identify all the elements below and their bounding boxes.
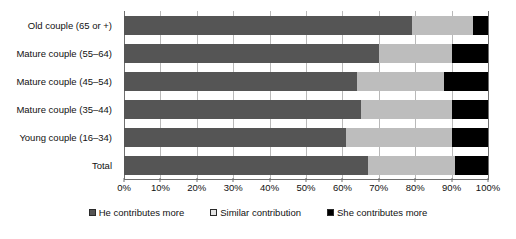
bar-slot — [124, 123, 488, 151]
x-axis-tick-label: 20% — [187, 182, 206, 194]
bar-slot — [124, 151, 488, 179]
x-axis-tick-label: 40% — [260, 182, 279, 194]
y-axis-label: Young couple (16–34) — [19, 132, 118, 143]
y-axis-label: Mature couple (45–54) — [16, 76, 118, 87]
legend-swatch-icon — [89, 209, 96, 216]
bar-segment[interactable] — [455, 156, 488, 175]
legend-swatch-icon — [327, 209, 334, 216]
bar-slot — [124, 67, 488, 95]
bar-segment[interactable] — [124, 100, 361, 119]
bar-segment[interactable] — [452, 100, 488, 119]
plot-area — [124, 11, 488, 179]
bar-segment[interactable] — [368, 156, 455, 175]
x-axis-tick-labels: 0%10%20%30%40%50%60%70%80%90%100% — [124, 182, 488, 198]
legend-item[interactable]: She contributes more — [327, 207, 427, 218]
y-axis-label-slot: Mature couple (55–64) — [0, 39, 118, 67]
y-axis-label-slot: Mature couple (35–44) — [0, 95, 118, 123]
legend-label: Similar contribution — [220, 207, 301, 218]
y-axis-label: Mature couple (55–64) — [16, 48, 118, 59]
y-axis-label-slot: Mature couple (45–54) — [0, 67, 118, 95]
y-axis-label-slot: Old couple (65 or +) — [0, 11, 118, 39]
stacked-bar[interactable] — [124, 100, 488, 119]
bar-segment[interactable] — [452, 44, 488, 63]
y-axis-category-labels: Old couple (65 or +)Mature couple (55–64… — [0, 11, 118, 179]
stacked-bar[interactable] — [124, 44, 488, 63]
legend-item[interactable]: He contributes more — [89, 207, 185, 218]
x-axis-tick-label: 50% — [296, 182, 315, 194]
x-axis-tick-label: 100% — [476, 182, 500, 194]
bar-segment[interactable] — [124, 156, 368, 175]
legend-swatch-icon — [210, 209, 217, 216]
bar-segment[interactable] — [473, 16, 488, 35]
bar-slot — [124, 11, 488, 39]
stacked-bar[interactable] — [124, 72, 488, 91]
stacked-bar[interactable] — [124, 16, 488, 35]
bar-series-layer — [124, 11, 488, 179]
bar-segment[interactable] — [412, 16, 474, 35]
bar-segment[interactable] — [346, 128, 452, 147]
bar-segment[interactable] — [361, 100, 452, 119]
bar-segment[interactable] — [444, 72, 488, 91]
legend-item[interactable]: Similar contribution — [210, 207, 301, 218]
bar-slot — [124, 95, 488, 123]
x-axis-tick-label: 0% — [117, 182, 131, 194]
x-axis-tick-label: 30% — [224, 182, 243, 194]
y-axis-label: Mature couple (35–44) — [16, 104, 118, 115]
legend-label: He contributes more — [99, 207, 185, 218]
x-axis-tick-label: 80% — [406, 182, 425, 194]
bar-segment[interactable] — [379, 44, 452, 63]
bar-segment[interactable] — [124, 128, 346, 147]
chart-legend: He contributes moreSimilar contributionS… — [0, 207, 516, 218]
bar-segment[interactable] — [124, 72, 357, 91]
bar-segment[interactable] — [357, 72, 444, 91]
legend-label: She contributes more — [337, 207, 427, 218]
x-axis-tick-label: 70% — [369, 182, 388, 194]
x-axis-line — [124, 179, 489, 180]
y-axis-label: Old couple (65 or +) — [28, 20, 118, 31]
x-axis-tick-label: 90% — [442, 182, 461, 194]
x-axis-tick-label: 10% — [151, 182, 170, 194]
y-axis-label-slot: Young couple (16–34) — [0, 123, 118, 151]
bar-segment[interactable] — [124, 16, 412, 35]
stacked-bar[interactable] — [124, 128, 488, 147]
stacked-bar[interactable] — [124, 156, 488, 175]
y-axis-label: Total — [92, 160, 118, 171]
x-axis-tick-label: 60% — [333, 182, 352, 194]
stacked-bar-chart: Old couple (65 or +)Mature couple (55–64… — [0, 0, 516, 239]
y-axis-label-slot: Total — [0, 151, 118, 179]
bar-slot — [124, 39, 488, 67]
bar-segment[interactable] — [452, 128, 488, 147]
bar-segment[interactable] — [124, 44, 379, 63]
gridline — [488, 11, 489, 179]
